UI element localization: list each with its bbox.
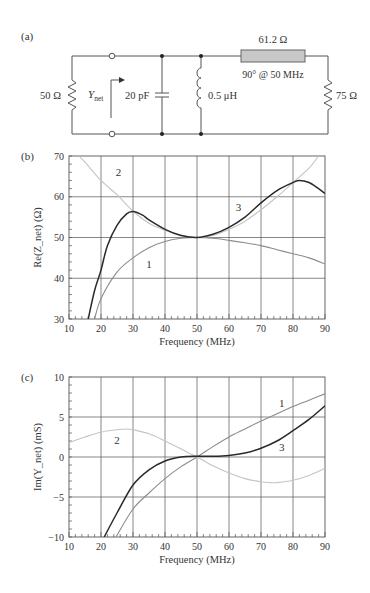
- resistor-75-symbol: [324, 80, 332, 110]
- y-tick-label: 30: [54, 314, 64, 325]
- label-ynet: Ynet: [88, 88, 104, 103]
- x-tick-label: 80: [288, 323, 298, 334]
- curve-label-3: 3: [236, 201, 242, 213]
- inductor-symbol: [197, 68, 201, 108]
- x-tick-label: 60: [224, 541, 234, 552]
- x-tick-label: 40: [160, 323, 170, 334]
- junction-dot: [199, 54, 203, 58]
- y-tick-label: −5: [53, 492, 64, 503]
- series-3-line: [104, 406, 325, 537]
- x-axis-label: Frequency (MHz): [159, 336, 235, 348]
- x-tick-label: 30: [128, 541, 138, 552]
- junction-dot: [160, 54, 164, 58]
- panel-a-label: (a): [21, 30, 34, 43]
- x-tick-label: 70: [256, 541, 266, 552]
- series-1-line: [116, 394, 325, 537]
- curve-label-2: 2: [114, 434, 120, 446]
- x-tick-label: 60: [224, 323, 234, 334]
- panel-c-label: (c): [21, 371, 34, 384]
- y-tick-label: 5: [59, 412, 64, 423]
- port-terminal-top: [109, 53, 115, 59]
- y-axis-label: Im(Y_net) (mS): [32, 423, 44, 491]
- chart-im-ynet: 102030405060708090−10−50510Frequency (MH…: [32, 372, 330, 567]
- label-load-resistor: 75 Ω: [336, 90, 357, 101]
- circuit-schematic: [68, 50, 332, 137]
- label-line-impedance: 61.2 Ω: [259, 34, 288, 45]
- figure: (a) (b) (c): [0, 0, 370, 593]
- label-capacitor: 20 pF: [125, 90, 149, 101]
- x-tick-label: 20: [96, 323, 106, 334]
- x-tick-label: 90: [320, 541, 330, 552]
- x-tick-label: 70: [256, 323, 266, 334]
- port-terminal-bottom: [109, 131, 115, 137]
- junction-dot: [160, 132, 164, 136]
- y-tick-label: 10: [54, 372, 64, 383]
- ynet-arrow-icon: [111, 80, 122, 118]
- x-tick-label: 40: [160, 541, 170, 552]
- y-tick-label: −10: [48, 532, 64, 543]
- junction-dot: [199, 132, 203, 136]
- y-tick-label: 50: [54, 232, 64, 243]
- x-tick-label: 50: [192, 323, 202, 334]
- x-axis-label: Frequency (MHz): [159, 554, 235, 566]
- y-tick-label: 70: [54, 151, 64, 162]
- curve-label-2: 2: [116, 166, 122, 178]
- x-tick-label: 30: [128, 323, 138, 334]
- panel-b-label: (b): [21, 150, 34, 163]
- x-tick-label: 50: [192, 541, 202, 552]
- curve-label-1: 1: [146, 258, 152, 270]
- curve-label-1: 1: [279, 397, 285, 409]
- x-tick-label: 90: [320, 323, 330, 334]
- x-tick-label: 10: [64, 323, 74, 334]
- y-tick-label: 60: [54, 191, 64, 202]
- curve-label-3: 3: [279, 441, 285, 453]
- transmission-line-symbol: [241, 50, 305, 62]
- label-line-length: 90° @ 50 MHz: [242, 69, 304, 80]
- label-source-resistor: 50 Ω: [40, 90, 61, 101]
- y-tick-label: 40: [54, 273, 64, 284]
- resistor-50-symbol: [68, 80, 76, 110]
- x-tick-label: 10: [64, 541, 74, 552]
- x-tick-label: 20: [96, 541, 106, 552]
- y-tick-label: 0: [59, 452, 64, 463]
- chart-re-znet: 1020304050607080903040506070Frequency (M…: [32, 151, 330, 349]
- label-inductor: 0.5 μH: [208, 90, 237, 101]
- x-tick-label: 80: [288, 541, 298, 552]
- y-axis-label: Re(Z_net) (Ω): [32, 207, 44, 268]
